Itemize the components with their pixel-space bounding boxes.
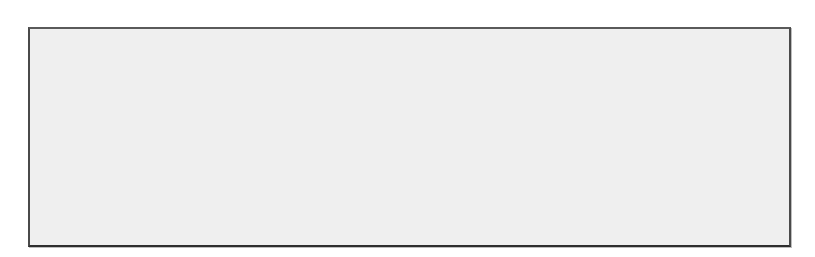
sensitivity-plot [0,0,815,257]
